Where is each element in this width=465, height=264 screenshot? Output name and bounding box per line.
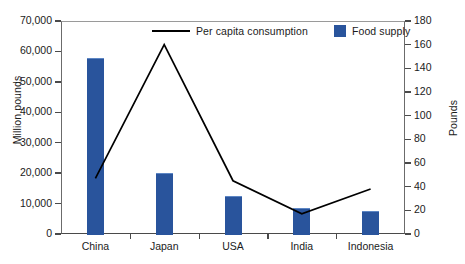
left-tick-label: 30,000 [0,137,52,148]
left-tick-mark [55,112,61,113]
x-tick-separator [267,234,268,239]
left-tick-mark [55,142,61,143]
right-tick-label: 0 [414,228,454,239]
legend-box-swatch-icon [334,25,346,37]
left-tick-label: 10,000 [0,198,52,209]
right-tick-mark [405,44,411,45]
bar-usa [225,196,242,235]
bar-china [87,58,104,235]
left-tick-label: 0 [0,228,52,239]
right-tick-mark [405,162,411,163]
right-tick-label: 40 [414,181,454,192]
legend-line-swatch-icon [152,30,190,32]
left-tick-label: 20,000 [0,167,52,178]
left-tick-mark [55,172,61,173]
x-tick-label-indonesia: Indonesia [336,240,405,252]
legend-entry-food-supply: Food supply [334,25,410,37]
x-tick-separator [199,234,200,239]
right-tick-label: 160 [414,39,454,50]
x-tick-label-china: China [61,240,130,252]
right-tick-label: 120 [414,86,454,97]
right-tick-label: 180 [414,15,454,26]
bar-indonesia [362,211,379,235]
right-tick-mark [405,115,411,116]
chart-figure: Million pounds Pounds 010,00020,00030,00… [0,0,465,264]
left-tick-mark [55,203,61,204]
legend-label-per-capita-consumption: Per capita consumption [196,25,308,37]
x-tick-label-india: India [267,240,336,252]
x-tick-separator [336,234,337,239]
right-tick-mark [405,233,411,234]
bar-india [293,208,310,235]
left-tick-mark [55,233,61,234]
left-tick-mark [55,81,61,82]
right-tick-label: 140 [414,62,454,73]
right-tick-label: 100 [414,110,454,121]
x-tick-separator [130,234,131,239]
right-tick-label: 80 [414,133,454,144]
left-tick-label: 50,000 [0,76,52,87]
right-tick-mark [405,186,411,187]
right-tick-label: 20 [414,204,454,215]
left-tick-label: 70,000 [0,15,52,26]
right-tick-mark [405,91,411,92]
legend-entry-per-capita-consumption: Per capita consumption [152,25,308,37]
legend-label-food-supply: Food supply [352,25,410,37]
left-tick-label: 60,000 [0,45,52,56]
chart-legend: Per capita consumption Food supply [152,22,410,40]
x-tick-label-usa: USA [199,240,268,252]
left-tick-mark [55,20,61,21]
bar-japan [156,173,173,235]
left-tick-label: 40,000 [0,106,52,117]
x-tick-label-japan: Japan [130,240,199,252]
right-tick-label: 60 [414,157,454,168]
right-tick-mark [405,139,411,140]
left-tick-mark [55,51,61,52]
right-tick-mark [405,68,411,69]
right-tick-mark [405,210,411,211]
